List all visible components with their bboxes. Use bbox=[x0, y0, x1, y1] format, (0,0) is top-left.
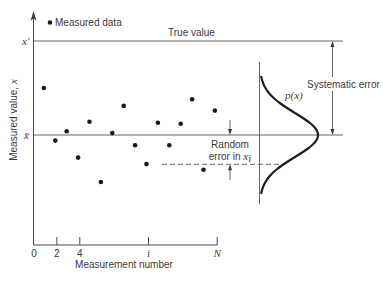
data-point bbox=[133, 143, 138, 148]
data-point bbox=[121, 104, 126, 109]
x-bar-label: x̄ bbox=[23, 129, 29, 141]
random-error-label-line1: Random bbox=[211, 139, 249, 150]
true-value-label: True value bbox=[168, 27, 215, 38]
data-point bbox=[213, 108, 218, 113]
data-point bbox=[99, 180, 104, 185]
x-tick-label: 4 bbox=[77, 248, 83, 259]
x-tick-label: N bbox=[213, 247, 222, 259]
data-point bbox=[87, 120, 92, 125]
data-point bbox=[178, 121, 183, 126]
data-point bbox=[76, 155, 81, 160]
legend-label: Measured data bbox=[55, 17, 122, 28]
data-point bbox=[110, 131, 115, 136]
x-prime-label: x′ bbox=[21, 35, 30, 47]
data-point bbox=[42, 86, 47, 91]
arrow-down-icon bbox=[331, 129, 335, 135]
data-point bbox=[64, 129, 69, 134]
legend-dot-icon bbox=[48, 20, 53, 25]
measurement-error-diagram: Measured data 024iN Measured value, x Me… bbox=[0, 0, 383, 281]
data-point bbox=[190, 97, 195, 102]
x-tick-label: 0 bbox=[31, 248, 37, 259]
arrow-down-icon bbox=[228, 129, 232, 135]
arrow-up-icon bbox=[331, 41, 335, 47]
x-tick-label: 2 bbox=[54, 248, 60, 259]
data-point bbox=[167, 143, 172, 148]
random-error-label-line2: error in xi bbox=[209, 150, 251, 164]
systematic-error-label: Systematic error bbox=[307, 79, 380, 90]
data-point bbox=[144, 162, 149, 167]
legend: Measured data bbox=[48, 17, 122, 28]
x-axis-ticks: 024iN bbox=[31, 237, 221, 259]
x-axis-label: Measurement number bbox=[75, 259, 173, 270]
y-axis-label: Measured value, x bbox=[7, 79, 19, 161]
x-tick-label: i bbox=[147, 247, 150, 259]
data-point bbox=[53, 138, 58, 143]
random-error-arrows bbox=[228, 120, 232, 180]
pdf-label: p(x) bbox=[284, 89, 303, 102]
data-point bbox=[201, 168, 206, 173]
data-point bbox=[156, 121, 161, 126]
arrow-up-icon bbox=[228, 164, 232, 170]
